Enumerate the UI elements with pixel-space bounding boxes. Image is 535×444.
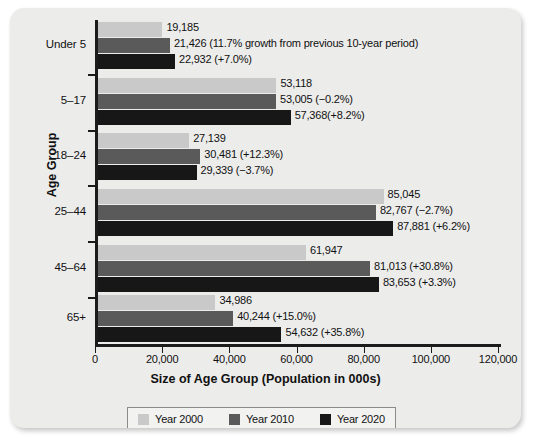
bar-value-label: 27,139	[189, 132, 225, 144]
bar-year-2020[interactable]	[98, 165, 197, 180]
chart-card: 020,00040,00060,00080,000100,000120,000 …	[10, 8, 521, 428]
legend-swatch-icon	[229, 414, 240, 425]
bar-value-label: 30,481 (+12.3%)	[200, 148, 283, 160]
chart-legend: Year 2000Year 2010Year 2020	[127, 407, 396, 428]
bar-year-2000[interactable]	[98, 189, 384, 204]
bar-value-label: 81,013 (+30.8%)	[370, 260, 453, 272]
bar-value-label: 40,244 (+15.0%)	[233, 310, 316, 322]
bar-year-2020[interactable]	[98, 54, 175, 69]
bar-year-2010[interactable]	[98, 261, 370, 276]
bar-year-2020[interactable]	[98, 110, 291, 125]
y-axis-title: Age Group	[45, 105, 59, 225]
bar-value-label: 53,118	[276, 77, 312, 89]
bar-year-2020[interactable]	[98, 277, 379, 292]
x-axis-title: Size of Age Group (Population in 000s)	[10, 372, 521, 386]
legend-label: Year 2020	[337, 413, 385, 425]
y-tick-mark	[88, 185, 95, 187]
bar-year-2000[interactable]	[98, 245, 306, 260]
x-tick-label: 0	[92, 353, 98, 365]
legend-label: Year 2010	[246, 413, 294, 425]
bar-year-2000[interactable]	[98, 295, 215, 310]
x-tick-label: 20,000	[146, 353, 178, 365]
legend-item-year-2000[interactable]: Year 2000	[138, 413, 203, 425]
y-tick-mark	[88, 130, 95, 132]
bar-value-label: 54,632 (+35.8%)	[281, 326, 364, 338]
bar-value-label: 22,932 (+7.0%)	[175, 53, 252, 65]
legend-swatch-icon	[320, 414, 331, 425]
x-tick-label: 80,000	[347, 353, 379, 365]
bar-value-label: 85,045	[384, 188, 420, 200]
y-category-label: Under 5	[46, 38, 86, 50]
bar-value-label: 53,005 (−0.2%)	[276, 93, 353, 105]
y-category-label: 65+	[67, 311, 86, 323]
y-tick-mark	[88, 74, 95, 76]
y-category-label: 5–17	[61, 94, 86, 106]
bar-year-2010[interactable]	[98, 311, 233, 326]
bar-year-2000[interactable]	[98, 78, 276, 93]
legend-swatch-icon	[138, 414, 149, 425]
bar-value-label: 19,185	[162, 21, 198, 33]
x-tick-label: 100,000	[412, 353, 450, 365]
y-category-label: 18–24	[55, 149, 86, 161]
y-category-label: 45–64	[55, 261, 86, 273]
bar-value-label: 21,426 (11.7% growth from previous 10-ye…	[170, 37, 418, 49]
bar-year-2010[interactable]	[98, 205, 376, 220]
bar-value-label: 57,368(+8.2%)	[291, 109, 365, 121]
bar-year-2020[interactable]	[98, 221, 393, 236]
bar-year-2010[interactable]	[98, 149, 200, 164]
x-tick-label: 60,000	[280, 353, 312, 365]
x-tick-label: 120,000	[479, 353, 517, 365]
bar-year-2010[interactable]	[98, 94, 276, 109]
bar-value-label: 34,986	[215, 294, 251, 306]
bar-year-2010[interactable]	[98, 38, 170, 53]
bar-value-label: 82,767 (−2.7%)	[376, 204, 453, 216]
y-tick-mark	[88, 241, 95, 243]
bar-year-2000[interactable]	[98, 22, 162, 37]
bar-year-2020[interactable]	[98, 327, 281, 342]
legend-item-year-2020[interactable]: Year 2020	[320, 413, 385, 425]
bar-value-label: 87,881 (+6.2%)	[393, 220, 470, 232]
bar-value-label: 83,653 (+3.3%)	[379, 276, 456, 288]
bar-value-label: 61,947	[306, 244, 342, 256]
y-tick-mark	[88, 297, 95, 299]
bar-value-label: 29,339 (−3.7%)	[197, 164, 274, 176]
legend-label: Year 2000	[155, 413, 203, 425]
x-axis-line	[95, 344, 501, 347]
bar-year-2000[interactable]	[98, 133, 189, 148]
y-category-label: 25–44	[55, 205, 86, 217]
legend-item-year-2010[interactable]: Year 2010	[229, 413, 294, 425]
x-tick-label: 40,000	[213, 353, 245, 365]
